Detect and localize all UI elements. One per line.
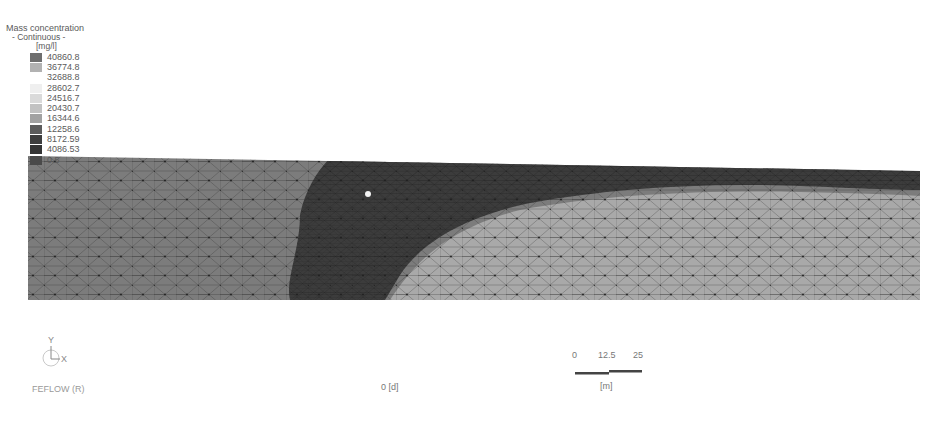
legend-entry: 32688.8: [6, 73, 146, 83]
legend-entry: 12258.6: [6, 124, 146, 134]
legend: Mass concentration - Continuous - [mg/l]…: [6, 24, 146, 165]
legend-entries: 40860.8 36774.8 32688.8 28602.7 24516.7 …: [6, 52, 146, 165]
legend-value: 16344.6: [47, 114, 80, 123]
legend-swatch: [30, 73, 42, 82]
legend-value: 20430.7: [47, 104, 80, 113]
legend-entry: 8172.59: [6, 134, 146, 144]
legend-value: 12258.6: [47, 125, 80, 134]
legend-entry: 36774.8: [6, 62, 146, 72]
legend-unit: [mg/l]: [6, 42, 146, 51]
legend-value: 32688.8: [47, 73, 80, 82]
legend-swatch: [30, 104, 42, 113]
legend-value: 8172.59: [47, 135, 80, 144]
legend-value: 40860.8: [47, 53, 80, 62]
legend-swatch: [30, 125, 42, 134]
legend-entry: 20430.7: [6, 103, 146, 113]
legend-value: 28602.7: [47, 84, 80, 93]
legend-swatch: [30, 114, 42, 123]
legend-entry: 24516.7: [6, 93, 146, 103]
source-marker-icon: [365, 191, 371, 197]
legend-swatch: [30, 84, 42, 93]
legend-subtitle: - Continuous -: [6, 33, 146, 42]
legend-swatch: [30, 145, 42, 154]
legend-value: 36774.8: [47, 63, 80, 72]
legend-value: 24516.7: [47, 94, 80, 103]
legend-entry: 28602.7: [6, 83, 146, 93]
legend-swatch: [30, 94, 42, 103]
legend-entry: 16344.6: [6, 114, 146, 124]
legend-value: 4086.53: [47, 145, 80, 154]
legend-swatch: [30, 63, 42, 72]
mesh-domain: [28, 150, 920, 300]
legend-entry: 0.5: [6, 155, 146, 165]
legend-swatch: [30, 53, 42, 62]
legend-entry: 4086.53: [6, 145, 146, 155]
legend-entry: 40860.8: [6, 52, 146, 62]
legend-value: 0.5: [47, 156, 60, 165]
legend-swatch: [30, 156, 42, 165]
legend-swatch: [30, 135, 42, 144]
